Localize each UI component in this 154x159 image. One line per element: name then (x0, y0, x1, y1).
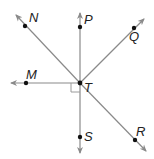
point-n (23, 24, 27, 28)
point-p (78, 25, 82, 29)
label-q: Q (129, 29, 139, 44)
label-p: P (84, 12, 93, 27)
label-t: T (84, 80, 93, 95)
point-t (78, 81, 83, 86)
point-s (78, 135, 82, 139)
label-n: N (29, 10, 39, 25)
geometry-diagram: N P Q M S R T (0, 0, 154, 159)
label-m: M (26, 67, 37, 82)
label-r: R (136, 124, 145, 139)
label-s: S (84, 129, 93, 144)
